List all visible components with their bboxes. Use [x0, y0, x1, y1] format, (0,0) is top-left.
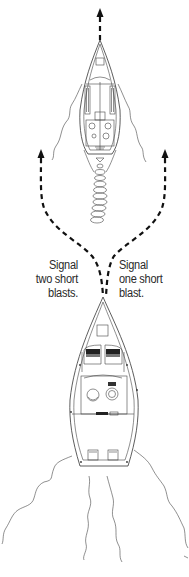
- starboard-signal-line-2: one short: [119, 272, 181, 286]
- lead-boat-wake: [52, 84, 146, 172]
- overtaking-boat-wake: [2, 450, 188, 562]
- starboard-signal-line-3: blast.: [119, 286, 181, 300]
- port-signal-label: Signal two short blasts.: [25, 258, 78, 300]
- port-signal-line-2: two short: [25, 272, 78, 286]
- port-signal-line-1: Signal: [25, 258, 78, 272]
- starboard-signal-line-1: Signal: [119, 258, 181, 272]
- overtaking-boat: [70, 297, 138, 466]
- starboard-signal-label: Signal one short blast.: [119, 258, 181, 300]
- port-signal-line-3: blasts.: [25, 286, 78, 300]
- lead-boat: [80, 40, 120, 223]
- ahead-path-arrow: [97, 8, 104, 40]
- windshield-shading: [86, 349, 120, 357]
